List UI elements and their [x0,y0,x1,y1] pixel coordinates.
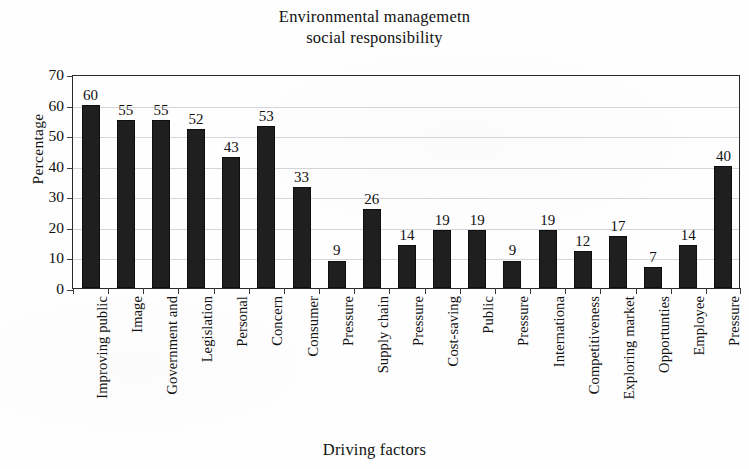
chart-title-line-1: Environmental managemetn [0,6,749,27]
bar-value-label: 60 [83,88,98,103]
bar [503,261,521,289]
x-axis-category-label: Competitiveness [587,296,602,394]
bar-value-label: 9 [333,243,341,258]
bar-value-label: 43 [224,140,239,155]
y-axis-tick-label: 0 [22,281,64,297]
bar [187,129,205,288]
bar [398,245,416,288]
bar-value-label: 53 [259,109,274,124]
bar [679,245,697,288]
x-axis-category-label: Improving public [95,296,110,399]
bar [644,267,662,288]
bar-value-label: 12 [575,234,590,249]
bar [433,230,451,288]
bar-value-label: 14 [681,228,696,243]
bar [609,236,627,288]
x-axis-category-label: Pressure [727,296,742,346]
x-axis-category-label: Pressure [341,296,356,346]
x-axis-category-labels: Improving publicImageGovernment andLegis… [72,292,740,432]
x-axis-title: Driving factors [0,440,749,460]
x-axis-category-label: Government and [165,296,180,394]
bar-value-label: 17 [610,219,625,234]
y-axis-tick-label: 10 [22,251,64,267]
chart-title: Environmental managemetn social responsi… [0,6,749,48]
x-axis-category-label: Internationa [552,296,567,367]
bar [117,120,135,288]
x-axis-category-label: Concern [270,296,285,346]
chart-page: Environmental managemetn social responsi… [0,0,749,469]
x-axis-category-label: Personal [235,296,250,347]
y-axis-tick-label: 50 [22,128,64,144]
bar-value-label: 19 [435,213,450,228]
x-axis-category-label: Exploring market [622,296,637,399]
y-axis-tick-label: 20 [22,220,64,236]
bar-value-label: 19 [470,213,485,228]
bar [539,230,557,288]
bar-value-label: 19 [540,213,555,228]
bar-value-label: 7 [649,250,657,265]
plot-area: 60555552435333926141919919121771440 [72,75,740,289]
bar-value-label: 40 [716,149,731,164]
y-axis-tick-label: 60 [22,98,64,114]
y-axis-tick-label: 40 [22,159,64,175]
x-axis-category-label: Supply chain [376,296,391,373]
x-axis-category-label: Opportunties [657,296,672,373]
y-axis-tick-label: 70 [22,67,64,83]
bar [363,209,381,288]
bar [468,230,486,288]
bar [82,105,100,288]
y-axis-tick-labels: 010203040506070 [22,75,64,289]
bar [574,251,592,288]
bar [257,126,275,288]
x-axis-category-label: Employee [692,296,707,356]
bar-value-label: 14 [400,228,415,243]
x-axis-category-label: Image [130,296,145,333]
bar-series: 60555552435333926141919919121771440 [73,76,739,288]
x-axis-category-label: Consumer [306,296,321,356]
bar-value-label: 55 [153,103,168,118]
bar [328,261,346,289]
bar-value-label: 33 [294,170,309,185]
bar-value-label: 26 [364,192,379,207]
bar-value-label: 55 [118,103,133,118]
bar-value-label: 52 [189,112,204,127]
chart-title-line-2: social responsibility [0,27,749,48]
bar [714,166,732,288]
x-axis-category-label: Cost-saving [446,296,461,366]
x-axis-category-label: Legislation [200,296,215,362]
y-axis-tick-label: 30 [22,190,64,206]
x-axis-category-label: Pressure [516,296,531,346]
x-axis-category-label: Pressure [411,296,426,346]
bar [293,187,311,288]
bar [222,157,240,288]
bar-value-label: 9 [509,243,517,258]
x-axis-tick-mark [740,288,741,294]
x-axis-category-label: Public [481,296,496,334]
bar [152,120,170,288]
